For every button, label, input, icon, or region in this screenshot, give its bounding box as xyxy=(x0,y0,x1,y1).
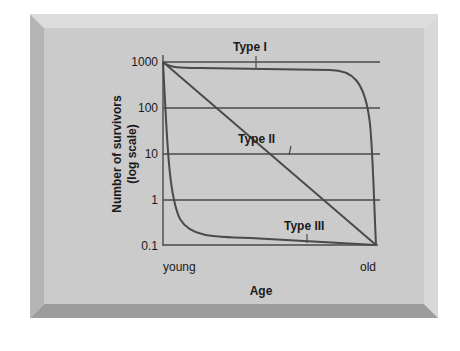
bevel-right xyxy=(424,14,438,318)
survivorship-chart: 1000 100 10 1 0.1 Number of survivors (l… xyxy=(30,14,438,318)
x-tick-old: old xyxy=(360,260,376,274)
bevel-bottom xyxy=(30,304,438,318)
chart-panel: 1000 100 10 1 0.1 Number of survivors (l… xyxy=(30,14,438,318)
bevel-top xyxy=(30,14,438,28)
y-tick-1000: 1000 xyxy=(131,55,158,69)
y-tick-10: 10 xyxy=(145,147,159,161)
x-tick-young: young xyxy=(163,260,196,274)
label-type-2: Type II xyxy=(238,132,275,146)
y-tick-0.1: 0.1 xyxy=(141,239,158,253)
y-axis-title-line1: Number of survivors xyxy=(110,95,124,213)
y-axis-title-line2: (log scale) xyxy=(125,124,139,183)
label-type-3: Type III xyxy=(284,219,324,233)
y-tick-100: 100 xyxy=(138,101,158,115)
label-type-1: Type I xyxy=(233,40,267,54)
x-axis-title: Age xyxy=(250,284,273,298)
bevel-left xyxy=(30,14,44,318)
y-tick-1: 1 xyxy=(151,193,158,207)
